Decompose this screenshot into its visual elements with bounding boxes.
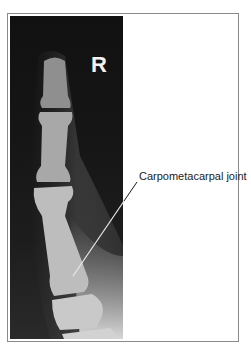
annotation-label: Carpometacarpal joint: [139, 170, 247, 182]
